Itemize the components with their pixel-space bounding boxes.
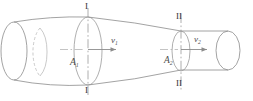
wide-tube-inner-bore-arc [40, 28, 47, 76]
section-label-I-bottom: I [85, 86, 88, 95]
diagram-canvas [0, 0, 253, 101]
section-label-II-bottom: II [176, 79, 182, 88]
converging-bottom-edge [88, 70, 181, 85]
wide-tube-top-edge [14, 17, 88, 22]
area-label-A2: A2 [164, 56, 173, 67]
wide-tube-bottom-edge [14, 80, 88, 85]
velocity-label-v1: v1 [111, 36, 118, 46]
velocity-1-arrow-head [111, 47, 117, 52]
wide-tube-inner-bore-hidden-arc [33, 28, 40, 76]
converging-top-edge [88, 17, 181, 31]
area-label-A2-subscript: 2 [170, 60, 173, 66]
velocity-label-v1-subscript: 1 [115, 40, 118, 46]
wide-tube-left-rim-ellipse [1, 22, 27, 80]
section-label-I-top: I [85, 2, 88, 11]
area-label-A1-subscript: 1 [76, 62, 79, 68]
velocity-2-arrow-head [202, 47, 208, 52]
narrow-tube-right-rim-ellipse [216, 31, 240, 70]
velocity-label-v2: v2 [194, 35, 201, 45]
velocity-label-v2-subscript: 2 [198, 39, 201, 45]
area-label-A1: A1 [70, 58, 79, 69]
pipe-flow-diagram: I I II II A1 A2 v1 v2 [0, 0, 253, 101]
section-label-II-top: II [176, 12, 182, 21]
